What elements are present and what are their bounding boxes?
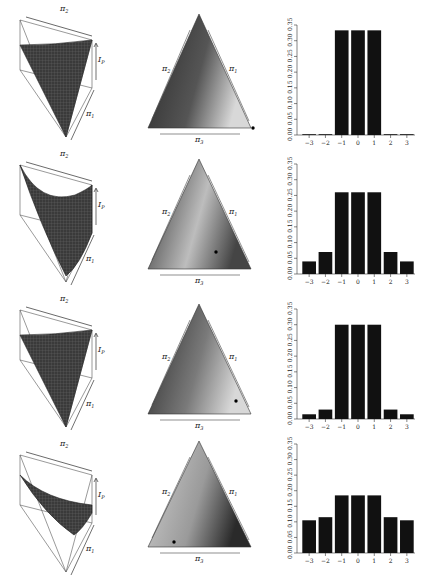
label-pi2: π2 bbox=[161, 352, 170, 362]
y-tick-label: 0.20 bbox=[286, 204, 293, 218]
y-tick-label: 0.00 bbox=[286, 266, 293, 280]
x-tick-label: 1 bbox=[372, 557, 376, 564]
y-tick-label: 0.25 bbox=[286, 188, 293, 202]
y-tick-label: 0.10 bbox=[286, 96, 293, 110]
bar--1 bbox=[335, 495, 349, 553]
bar-2 bbox=[384, 252, 398, 274]
bar--2 bbox=[319, 517, 333, 553]
x-tick-label: 3 bbox=[405, 278, 409, 285]
x-tick-label: −2 bbox=[321, 423, 330, 430]
bar-3 bbox=[400, 261, 414, 274]
x-tick-label: 0 bbox=[356, 557, 360, 564]
y-tick-label: 0.15 bbox=[286, 80, 293, 94]
bar-1 bbox=[367, 495, 381, 553]
label-pi2: π2 bbox=[59, 439, 68, 449]
label-pi2: π2 bbox=[59, 149, 68, 159]
y-tick-label: 0.35 bbox=[286, 17, 293, 31]
x-tick-label: 1 bbox=[372, 423, 376, 430]
x-tick-label: −2 bbox=[321, 557, 330, 564]
y-axis bbox=[294, 444, 297, 553]
x-tick-label: 2 bbox=[389, 423, 393, 430]
y-tick-label: 0.35 bbox=[286, 156, 293, 170]
label-pi1: π1 bbox=[228, 487, 237, 497]
surface-plot-3d: π2IPπ1 bbox=[0, 0, 140, 145]
label-pi2: π2 bbox=[59, 294, 68, 304]
label-pi2: π2 bbox=[161, 487, 170, 497]
figure-row-1: π2IPπ1π2π1π30.000.050.100.150.200.250.30… bbox=[0, 0, 432, 145]
x-tick-label: −1 bbox=[337, 278, 346, 285]
bar-1 bbox=[367, 192, 381, 274]
optimum-point bbox=[234, 399, 237, 402]
y-axis bbox=[294, 309, 297, 419]
bar-0 bbox=[351, 192, 365, 274]
bar-3 bbox=[400, 520, 414, 553]
simplex-triangle-plot: π2π1π3 bbox=[140, 290, 280, 435]
figure-row-3: π2IPπ1π2π1π30.000.050.100.150.200.250.30… bbox=[0, 290, 432, 435]
simplex-triangle-plot: π2π1π3 bbox=[140, 0, 280, 145]
label-pi1: π1 bbox=[228, 352, 237, 362]
x-tick-label: 3 bbox=[405, 557, 409, 564]
label-pi1: π1 bbox=[85, 544, 94, 554]
y-axis bbox=[294, 164, 297, 274]
x-tick-label: −3 bbox=[305, 557, 314, 564]
bar--3 bbox=[302, 520, 316, 553]
y-tick-label: 0.15 bbox=[286, 364, 293, 378]
y-tick-label: 0.20 bbox=[286, 65, 293, 79]
y-tick-label: 0.00 bbox=[286, 411, 293, 425]
label-pi1: π1 bbox=[228, 207, 237, 217]
y-tick-label: 0.30 bbox=[286, 33, 293, 47]
x-tick-label: 2 bbox=[389, 278, 393, 285]
bar-chart: 0.000.050.100.150.200.250.300.35−3−2−101… bbox=[280, 435, 432, 578]
y-tick-label: 0.10 bbox=[286, 235, 293, 249]
simplex-triangle-plot: π2π1π3 bbox=[140, 435, 280, 578]
y-tick-label: 0.30 bbox=[286, 172, 293, 186]
bar-chart: 0.000.050.100.150.200.250.300.35−3−2−101… bbox=[280, 145, 432, 290]
y-tick-label: 0.20 bbox=[286, 349, 293, 363]
y-tick-label: 0.20 bbox=[286, 483, 293, 497]
y-tick-label: 0.00 bbox=[286, 545, 293, 559]
y-tick-label: 0.15 bbox=[286, 499, 293, 513]
x-tick-label: −3 bbox=[305, 423, 314, 430]
bar-chart: 0.000.050.100.150.200.250.300.35−3−2−101… bbox=[280, 0, 432, 145]
bar-0 bbox=[351, 325, 365, 419]
label-pi3: π3 bbox=[194, 421, 203, 431]
simplex-triangle-plot: π2π1π3 bbox=[140, 145, 280, 290]
label-pi2: π2 bbox=[161, 64, 170, 74]
y-tick-label: 0.00 bbox=[286, 127, 293, 141]
y-tick-label: 0.10 bbox=[286, 514, 293, 528]
x-tick-label: −3 bbox=[305, 278, 314, 285]
x-tick-label: 0 bbox=[356, 423, 360, 430]
label-ip: IP bbox=[97, 55, 105, 65]
label-pi2: π2 bbox=[161, 207, 170, 217]
label-pi1: π1 bbox=[85, 399, 94, 409]
bar--2 bbox=[319, 252, 333, 274]
bar-2 bbox=[384, 410, 398, 419]
figure-row-2: π2IPπ1π2π1π30.000.050.100.150.200.250.30… bbox=[0, 145, 432, 290]
bar-chart: 0.000.050.100.150.200.250.300.35−3−2−101… bbox=[280, 290, 432, 435]
bar-0 bbox=[351, 30, 365, 135]
label-pi3: π3 bbox=[194, 135, 203, 145]
x-tick-label: 0 bbox=[356, 278, 360, 285]
optimum-point bbox=[214, 250, 217, 253]
bar--1 bbox=[335, 30, 349, 135]
y-tick-label: 0.05 bbox=[286, 530, 293, 544]
bar-0 bbox=[351, 495, 365, 553]
x-tick-label: 2 bbox=[389, 557, 393, 564]
label-ip: IP bbox=[97, 200, 105, 210]
label-pi3: π3 bbox=[194, 276, 203, 286]
y-tick-label: 0.35 bbox=[286, 301, 293, 315]
surface-plot-3d: π2IPπ1 bbox=[0, 145, 140, 290]
y-tick-label: 0.35 bbox=[286, 436, 293, 450]
y-tick-label: 0.15 bbox=[286, 219, 293, 233]
label-pi3: π3 bbox=[194, 554, 203, 564]
y-tick-label: 0.25 bbox=[286, 49, 293, 63]
bar--1 bbox=[335, 325, 349, 419]
surface-plot-3d: π2IPπ1 bbox=[0, 290, 140, 435]
bar-2 bbox=[384, 517, 398, 553]
optimum-point bbox=[172, 540, 175, 543]
bar--3 bbox=[302, 261, 316, 274]
label-pi1: π1 bbox=[85, 254, 94, 264]
x-tick-label: 1 bbox=[372, 278, 376, 285]
y-axis bbox=[294, 25, 297, 135]
bar--3 bbox=[302, 414, 316, 419]
